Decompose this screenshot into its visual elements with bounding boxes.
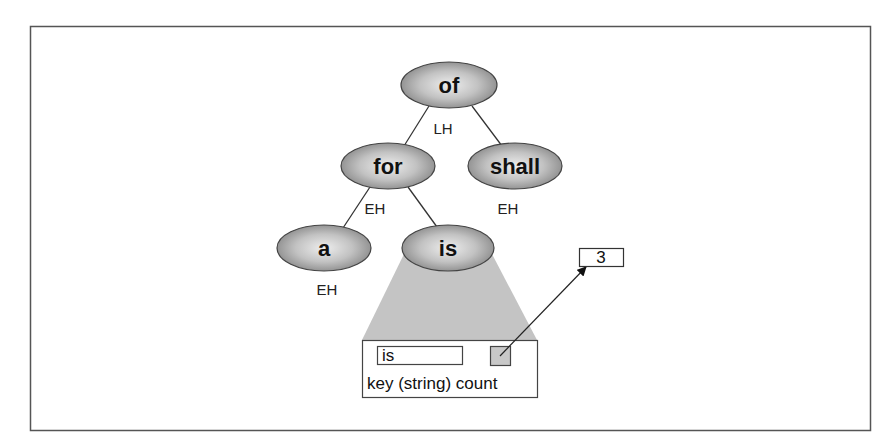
edge-of-for — [404, 106, 429, 146]
balance-label-shall: EH — [498, 200, 519, 217]
balance-label-of: LH — [433, 120, 452, 137]
count-value-box: 3 — [580, 248, 624, 267]
tree-node-shall[interactable]: shall — [468, 143, 562, 189]
tree-node-for[interactable]: for — [341, 143, 435, 189]
key-value: is — [382, 346, 394, 365]
node-label: of — [439, 73, 460, 98]
count-value: 3 — [596, 248, 605, 267]
balance-label-for: EH — [365, 200, 386, 217]
avl-tree-diagram: of LH for EH shall EH a EH is is key (st… — [0, 0, 884, 444]
record-caption: key (string) count — [367, 374, 498, 393]
edge-of-shall — [472, 106, 502, 146]
node-label: a — [318, 236, 331, 261]
balance-label-a: EH — [317, 281, 338, 298]
record-box: is key (string) count — [363, 341, 538, 398]
edge-for-is — [408, 187, 437, 227]
tree-node-is[interactable]: is — [402, 225, 494, 271]
tree-node-of[interactable]: of — [401, 62, 497, 108]
node-label: shall — [490, 154, 540, 179]
tree-node-a[interactable]: a — [277, 225, 371, 271]
node-label: is — [439, 236, 457, 261]
node-label: for — [373, 154, 403, 179]
